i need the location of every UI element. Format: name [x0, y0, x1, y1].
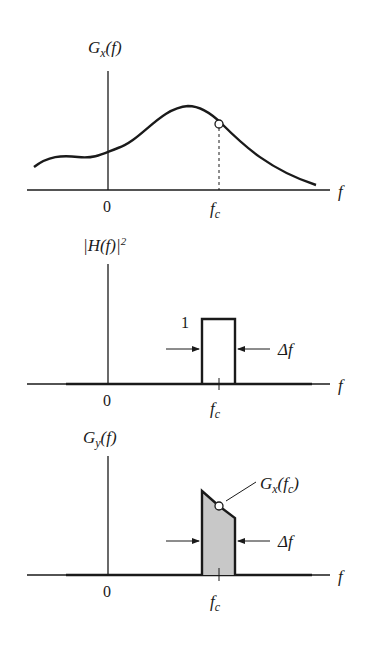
origin-label: 0 [103, 198, 111, 215]
panel3-title: Gy(f) [83, 428, 117, 450]
panel-filter-response: |H(f)|2 1 Δf f 0 fc [27, 235, 345, 421]
x-axis-label: f [338, 376, 345, 395]
panel-output-psd: Gy(f) Gx(fc) Δf f 0 fc [27, 428, 345, 614]
fc-label: fc [210, 199, 221, 221]
fc-point-marker [215, 120, 223, 128]
diagram-canvas: Gx(f) f 0 fc |H(f)|2 1 Δf f 0 fc Gy(f) [0, 0, 376, 648]
x-axis-label: f [338, 182, 345, 201]
leader-line [226, 482, 256, 501]
panel1-title: Gx(f) [88, 38, 122, 60]
panel-input-psd: Gx(f) f 0 fc [27, 38, 345, 221]
origin-label: 0 [103, 392, 111, 409]
point-label: Gx(fc) [260, 474, 299, 496]
x-axis-label: f [338, 567, 345, 586]
height-label: 1 [181, 314, 189, 331]
psd-curve [34, 106, 316, 185]
gx-fc-point-marker [215, 502, 223, 510]
rect-passband [202, 319, 235, 384]
origin-label: 0 [103, 583, 111, 600]
fc-label: fc [210, 399, 221, 421]
bandwidth-label: Δf [277, 340, 295, 359]
bandwidth-label: Δf [277, 532, 295, 551]
panel2-title: |H(f)|2 [83, 235, 127, 255]
fc-label: fc [210, 592, 221, 614]
